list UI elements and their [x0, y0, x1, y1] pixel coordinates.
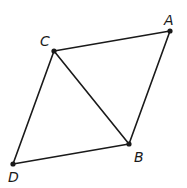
segment-cb	[54, 51, 129, 144]
vertex-c-point	[51, 48, 56, 53]
vertex-b-label: B	[134, 149, 144, 165]
segment-ab	[129, 31, 170, 144]
vertex-b-point	[126, 141, 131, 146]
segment-ca	[54, 31, 170, 51]
edges	[13, 31, 170, 164]
vertex-a-point	[167, 28, 172, 33]
segment-bd	[13, 144, 129, 164]
labels: ABCD	[8, 12, 174, 185]
vertex-c-label: C	[40, 33, 50, 49]
parallelogram-diagram: ABCD	[0, 0, 187, 188]
vertex-d-point	[10, 161, 15, 166]
segment-dc	[13, 51, 54, 164]
vertex-d-label: D	[8, 169, 19, 185]
vertex-a-label: A	[163, 12, 174, 28]
